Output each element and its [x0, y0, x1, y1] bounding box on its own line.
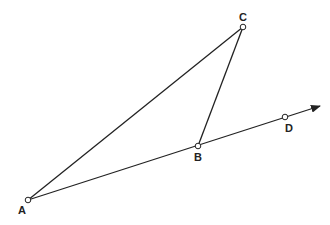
point-a: [25, 197, 31, 203]
points-layer: ABCD: [18, 11, 293, 216]
point-label-a: A: [18, 204, 26, 216]
geometry-diagram: ABCD: [0, 0, 330, 225]
point-b: [195, 143, 201, 149]
point-c: [240, 24, 246, 30]
point-d: [282, 114, 288, 120]
point-label-c: C: [239, 11, 247, 23]
point-label-b: B: [194, 151, 202, 163]
ray-abd-arrow: [28, 106, 320, 200]
lines-layer: [28, 27, 320, 200]
point-label-d: D: [285, 122, 293, 134]
